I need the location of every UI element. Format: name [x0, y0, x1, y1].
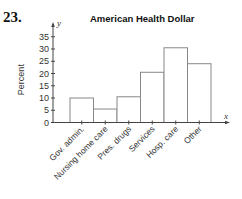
x-axis-variable: x: [223, 111, 228, 121]
y-axis-arrow-icon: [51, 22, 55, 27]
bar-hosp-care: [164, 48, 188, 123]
bar-pres-drugs: [117, 97, 141, 123]
bars: [70, 48, 211, 123]
y-axis-variable: y: [56, 18, 61, 28]
y-tick-label: 20: [39, 69, 49, 79]
y-axis: y05101520253035Percent: [16, 18, 61, 128]
y-tick-label: 5: [44, 105, 49, 115]
y-tick-label: 10: [39, 93, 49, 103]
x-axis-arrow-icon: [225, 121, 230, 125]
bar-nursing-home-care: [94, 109, 118, 122]
y-tick-label: 30: [39, 44, 49, 54]
bar-other: [188, 64, 212, 123]
y-tick-label: 35: [39, 32, 49, 42]
bar-chart: y05101520253035Percent xGov. admin.Nursi…: [0, 0, 242, 199]
y-axis-label: Percent: [16, 64, 26, 96]
y-tick-label: 15: [39, 81, 49, 91]
y-tick-label: 0: [44, 118, 49, 128]
bar-gov-admin: [70, 98, 94, 123]
x-tick-label: Other: [182, 124, 204, 146]
bar-services: [141, 72, 165, 122]
y-tick-label: 25: [39, 56, 49, 66]
